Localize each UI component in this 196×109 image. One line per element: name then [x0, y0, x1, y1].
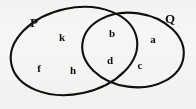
element-label-a: a: [150, 34, 156, 45]
set-label-q: Q: [165, 12, 175, 25]
set-label-p: P: [30, 16, 38, 29]
element-label-b: b: [109, 28, 115, 39]
element-label-d: d: [107, 55, 113, 66]
venn-diagram-figure: P Q k f h b d a c: [0, 0, 196, 109]
set-p-ellipse: [2, 0, 145, 106]
element-label-k: k: [59, 32, 65, 43]
element-label-h: h: [70, 65, 76, 76]
element-label-f: f: [37, 63, 41, 74]
element-label-c: c: [138, 60, 143, 71]
